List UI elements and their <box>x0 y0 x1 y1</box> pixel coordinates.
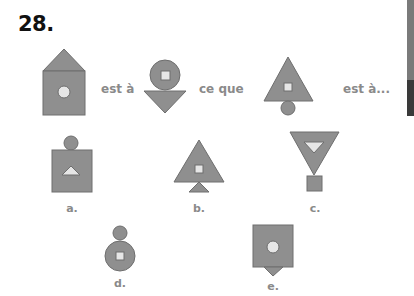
big-triangle-icon <box>264 57 313 101</box>
option-c-label[interactable]: c. <box>310 202 321 215</box>
option-b-figure[interactable] <box>174 140 224 192</box>
small-square-icon <box>307 176 322 191</box>
inner-square-icon <box>116 252 124 260</box>
small-circle-icon <box>281 101 295 115</box>
big-inverted-triangle-icon <box>290 132 339 175</box>
figure-circle-over-triangle <box>144 60 186 113</box>
inner-circle-icon <box>267 241 279 253</box>
analogy-word-3: est à... <box>343 82 390 96</box>
analogy-question: 28. <box>0 0 414 296</box>
big-triangle-icon <box>174 140 224 182</box>
figure-triangle-over-circle <box>264 57 313 115</box>
small-triangle-icon <box>189 182 209 192</box>
option-d-label[interactable]: d. <box>114 277 126 290</box>
figure-house <box>43 49 85 115</box>
small-inverted-triangle-icon <box>264 267 283 276</box>
option-a-label[interactable]: a. <box>66 202 78 215</box>
analogy-word-1: est à <box>101 82 134 96</box>
analogy-word-2: ce que <box>199 82 244 96</box>
option-e-figure[interactable] <box>253 225 293 276</box>
inner-square-icon <box>161 71 170 80</box>
option-d-figure[interactable] <box>105 226 135 271</box>
inner-square-icon <box>284 83 292 91</box>
roof-triangle-icon <box>43 49 85 71</box>
inner-circle-icon <box>58 86 70 98</box>
figures-canvas <box>0 0 414 296</box>
inner-square-icon <box>195 165 203 173</box>
option-e-label[interactable]: e. <box>267 280 279 293</box>
small-circle-icon <box>64 136 78 150</box>
option-a-figure[interactable] <box>52 136 92 192</box>
inverted-triangle-icon <box>144 91 186 113</box>
option-c-figure[interactable] <box>290 132 339 191</box>
option-b-label[interactable]: b. <box>193 202 205 215</box>
small-circle-icon <box>113 226 127 240</box>
